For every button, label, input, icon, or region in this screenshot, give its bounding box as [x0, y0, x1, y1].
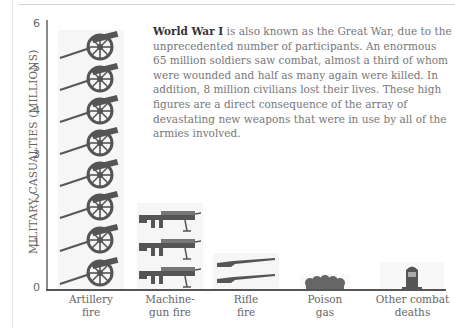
bar-rifle-fire	[213, 253, 279, 289]
y-axis	[46, 20, 48, 291]
y-tick-0: 0	[26, 282, 40, 294]
bar-machine-gun-fire	[137, 203, 203, 289]
gravestone-icon	[380, 262, 444, 289]
category-line: Other combat	[370, 293, 455, 306]
category-line: Rifle	[216, 293, 276, 306]
machine-gun-icon	[137, 203, 203, 289]
rifle-icon	[213, 253, 279, 289]
y-tick-4: 4	[26, 105, 40, 117]
bar-poison-gas	[300, 274, 350, 289]
x-axis	[46, 289, 446, 291]
category-line: fire	[56, 306, 126, 319]
category-line: gas	[295, 306, 355, 319]
bar-artillery-fire	[58, 30, 124, 289]
bar-other-combat-deaths	[380, 262, 444, 289]
category-line: Poison	[295, 293, 355, 306]
y-tick-6: 6	[26, 18, 40, 30]
description-text: World War I is also known as the Great W…	[153, 24, 453, 141]
category-label-rifle: Rifle fire	[216, 293, 276, 319]
gas-cloud-icon	[300, 274, 350, 289]
category-label-machine-gun: Machine- gun fire	[135, 293, 205, 319]
y-tick-1: 1	[26, 237, 40, 249]
category-line: deaths	[370, 306, 455, 319]
category-line: fire	[216, 306, 276, 319]
category-line: gun fire	[135, 306, 205, 319]
page-edge	[12, 0, 13, 328]
category-line: Artillery	[56, 293, 126, 306]
category-label-poison-gas: Poison gas	[295, 293, 355, 319]
category-line: Machine-	[135, 293, 205, 306]
description-body: is also known as the Great War, due to t…	[153, 25, 452, 139]
cannon-icon	[58, 30, 124, 289]
y-tick-5: 5	[26, 62, 40, 74]
category-label-artillery: Artillery fire	[56, 293, 126, 319]
y-tick-3: 3	[26, 149, 40, 161]
description-heading: World War I	[153, 25, 223, 37]
top-rule	[18, 4, 455, 5]
y-tick-2: 2	[26, 193, 40, 205]
category-label-other-combat: Other combat deaths	[370, 293, 455, 319]
